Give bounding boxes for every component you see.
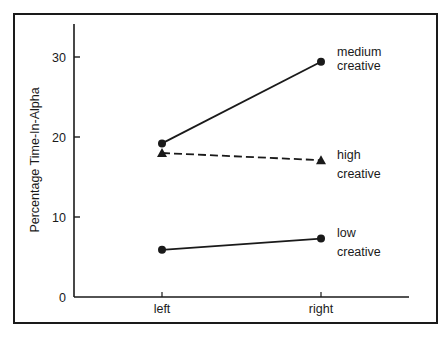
circle-marker (317, 58, 325, 66)
series-high-creative (157, 148, 326, 164)
line-chart: 0102030 leftright Percentage Time-In-Alp… (0, 0, 448, 339)
circle-marker (317, 235, 325, 243)
series-labels: mediumcreativehighcreativelowcreative (337, 45, 381, 259)
series-label-high-creative: high (337, 148, 361, 162)
series-line (162, 153, 321, 160)
y-ticks: 0102030 (52, 51, 80, 305)
y-tick-label: 10 (52, 211, 66, 225)
triangle-marker (316, 155, 326, 164)
series-label-medium-creative: creative (337, 59, 381, 73)
series-line (162, 239, 321, 250)
series-label-medium-creative: medium (337, 45, 381, 59)
y-axis-label: Percentage Time-In-Alpha (28, 87, 42, 232)
y-tick-label: 20 (52, 131, 66, 145)
series-line (162, 62, 321, 144)
series-medium-creative (158, 58, 325, 148)
x-tick-label-right: right (309, 302, 334, 316)
y-tick-label: 30 (52, 51, 66, 65)
x-tick-label-left: left (154, 302, 171, 316)
series-low-creative (158, 235, 325, 254)
series-label-low-creative: low (337, 226, 357, 240)
series-label-high-creative: creative (337, 167, 381, 181)
circle-marker (158, 246, 166, 254)
x-ticks: leftright (154, 292, 334, 316)
series-group (157, 58, 326, 254)
y-tick-label: 0 (59, 291, 66, 305)
circle-marker (158, 139, 166, 147)
series-label-low-creative: creative (337, 245, 381, 259)
